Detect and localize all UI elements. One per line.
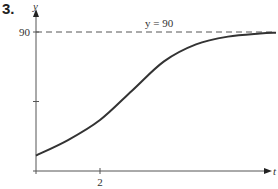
x-axis-arrow-icon [264,168,272,174]
logistic-chart: y = 90yt902 [0,0,278,189]
x-tick-label: 2 [97,176,103,188]
data-curve [36,33,276,156]
asymptote-label: y = 90 [145,17,174,29]
x-axis-label: t [273,165,277,177]
y-axis-label: y [32,0,38,12]
y-tick-label: 90 [19,26,31,38]
